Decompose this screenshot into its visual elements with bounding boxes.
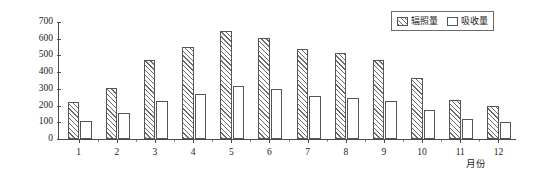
x-tick-minor <box>479 140 480 142</box>
bar-group <box>258 22 282 139</box>
x-tick-label: 1 <box>69 146 89 158</box>
bar-group <box>373 22 397 139</box>
bar-absorption <box>195 94 207 139</box>
legend-label-absorption: 吸收量 <box>461 16 488 27</box>
bar-group <box>335 22 359 139</box>
x-tick-minor <box>250 140 251 142</box>
y-tick-label: 200 <box>27 99 53 112</box>
bar-group <box>106 22 130 139</box>
x-tick-minor <box>289 140 290 142</box>
bar-group <box>411 22 435 139</box>
y-tick-label: 300 <box>27 82 53 95</box>
y-tick-label: 100 <box>27 115 53 128</box>
legend-swatch-white-icon <box>447 17 458 26</box>
x-tick <box>384 140 385 143</box>
bar-irradiance <box>411 78 423 139</box>
bar-irradiance <box>335 53 347 139</box>
x-tick <box>460 140 461 143</box>
x-axis-title: 月份 <box>466 156 486 170</box>
x-tick-label: 6 <box>259 146 279 158</box>
y-tick-label: 700 <box>27 15 53 28</box>
bar-irradiance <box>68 102 80 139</box>
x-tick <box>422 140 423 143</box>
legend-item-absorption: 吸收量 <box>447 16 488 27</box>
legend-swatch-hatched-icon <box>397 17 408 26</box>
x-tick-label: 8 <box>336 146 356 158</box>
y-tick-label: 600 <box>27 32 53 45</box>
y-tick-label: 0 <box>27 132 53 145</box>
y-tick-label: 400 <box>27 65 53 78</box>
bar-absorption <box>271 89 283 139</box>
bar-absorption <box>385 101 397 139</box>
x-tick-minor <box>365 140 366 142</box>
x-tick-label: 5 <box>221 146 241 158</box>
x-tick-minor <box>441 140 442 142</box>
bar-irradiance <box>182 47 194 139</box>
x-tick-minor <box>327 140 328 142</box>
x-tick <box>231 140 232 143</box>
x-tick-minor <box>403 140 404 142</box>
legend-label-irradiance: 辐照量 <box>411 16 438 27</box>
x-tick-minor <box>136 140 137 142</box>
x-tick-label: 9 <box>374 146 394 158</box>
bar-group <box>297 22 321 139</box>
bar-irradiance <box>487 106 499 139</box>
x-tick-minor <box>212 140 213 142</box>
chart-legend: 辐照量 吸收量 <box>391 11 494 31</box>
bar-irradiance <box>449 100 461 139</box>
bar-group <box>182 22 206 139</box>
bar-irradiance <box>144 60 156 139</box>
bar-absorption <box>309 96 321 139</box>
bar-absorption <box>424 110 436 139</box>
bar-absorption <box>500 122 512 139</box>
bar-group <box>449 22 473 139</box>
bar-chart: 辐照量·吸收量/(MJ·m-2) 0100200300400500600700 … <box>0 0 535 177</box>
bar-absorption <box>80 121 92 139</box>
x-tick-minor <box>174 140 175 142</box>
x-tick <box>117 140 118 143</box>
bar-absorption <box>156 101 168 139</box>
legend-item-irradiance: 辐照量 <box>397 16 438 27</box>
x-tick-label: 10 <box>412 146 432 158</box>
x-tick-label: 2 <box>107 146 127 158</box>
x-tick-label: 12 <box>488 146 508 158</box>
bar-group <box>144 22 168 139</box>
bar-irradiance <box>220 31 232 139</box>
x-tick-label: 4 <box>183 146 203 158</box>
bar-group <box>220 22 244 139</box>
x-tick-label: 7 <box>298 146 318 158</box>
bar-group <box>68 22 92 139</box>
bar-absorption <box>347 98 359 139</box>
x-tick-minor <box>98 140 99 142</box>
bar-irradiance <box>258 38 270 139</box>
x-tick-label: 3 <box>145 146 165 158</box>
x-tick <box>155 140 156 143</box>
plot-area: 0100200300400500600700 123456789101112 <box>58 22 516 140</box>
bar-absorption <box>233 86 245 139</box>
y-tick: 0 <box>57 139 61 140</box>
bar-absorption <box>462 119 474 139</box>
bar-absorption <box>118 113 130 139</box>
bar-series-container <box>59 22 516 139</box>
x-tick <box>79 140 80 143</box>
bar-group <box>487 22 511 139</box>
x-tick <box>346 140 347 143</box>
x-tick <box>308 140 309 143</box>
bar-irradiance <box>297 49 309 139</box>
x-tick <box>269 140 270 143</box>
y-tick-label: 500 <box>27 48 53 61</box>
bar-irradiance <box>373 60 385 139</box>
x-tick <box>193 140 194 143</box>
x-axis-line <box>58 139 516 140</box>
x-tick <box>498 140 499 143</box>
bar-irradiance <box>106 88 118 139</box>
